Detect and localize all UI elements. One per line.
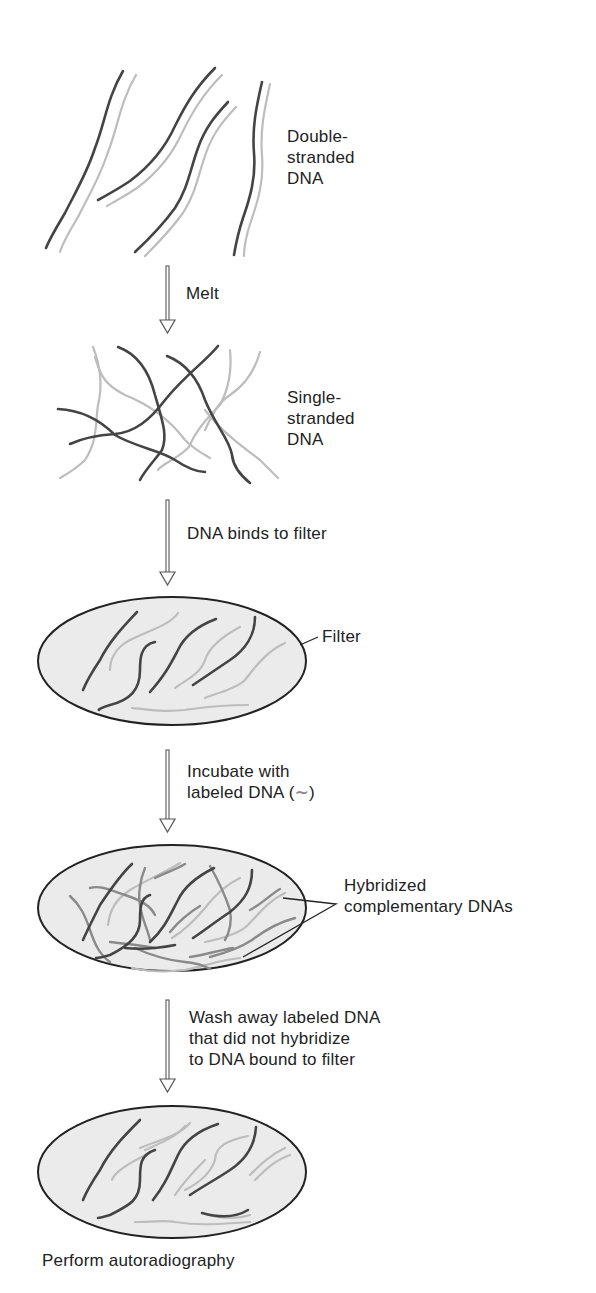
arrow-binds-filter: [160, 500, 175, 585]
label-hybridized-complementary-dnas: Hybridized complementary DNAs: [344, 875, 513, 917]
labeled-dna-symbol-icon: ∼: [295, 783, 309, 802]
filter-graphic: [38, 597, 318, 725]
label-single-stranded-dna: Single- stranded DNA: [287, 387, 355, 450]
hybridized-filter-graphic: [38, 845, 336, 971]
arrow-incubate: [160, 750, 175, 832]
step-label-wash: Wash away labeled DNA that did not hybri…: [189, 1007, 381, 1070]
final-step-label: Perform autoradiography: [42, 1250, 235, 1271]
washed-filter-graphic: [38, 1106, 306, 1238]
arrow-melt: [160, 266, 175, 333]
double-stranded-dna-graphic: [46, 68, 270, 256]
label-filter: Filter: [322, 626, 361, 647]
single-stranded-dna-graphic: [58, 346, 278, 483]
step-label-incubate: Incubate with labeled DNA (∼): [187, 761, 315, 803]
arrow-wash: [160, 1000, 175, 1092]
label-double-stranded-dna: Double- stranded DNA: [287, 126, 355, 189]
incubate-suffix: ): [309, 783, 315, 802]
incubate-text: Incubate with labeled DNA (: [187, 762, 295, 802]
step-label-binds-filter: DNA binds to filter: [187, 523, 327, 544]
step-label-melt: Melt: [186, 283, 219, 304]
diagram-canvas: [0, 0, 596, 1293]
